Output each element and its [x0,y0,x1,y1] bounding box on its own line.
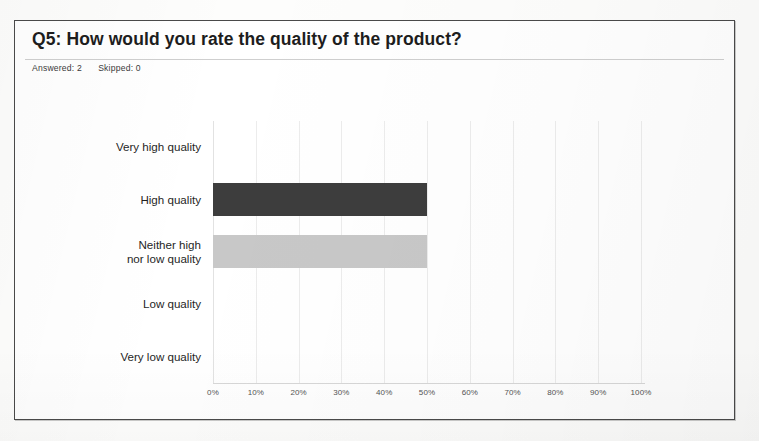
bar-row [213,226,641,278]
y-axis-label-line: Low quality [23,297,201,311]
bar-high-quality[interactable] [213,183,427,216]
card-header: Q5: How would you rate the quality of th… [15,21,734,59]
y-axis-label-very-low-quality: Very low quality [23,350,201,364]
page-title: Q5: How would you rate the quality of th… [32,29,462,50]
x-tick-50%: 50% [419,388,435,397]
gridline-100% [641,121,642,383]
x-tick-0%: 0% [207,388,219,397]
x-axis-baseline [213,383,645,384]
response-summary: Answered: 2 Skipped: 0 [32,63,141,73]
bar-row [213,278,641,330]
x-tick-30%: 30% [333,388,349,397]
plot-area [213,121,641,383]
y-axis-label-high-quality: High quality [23,193,201,207]
bar-row [213,121,641,173]
y-axis-label-very-high-quality: Very high quality [23,140,201,154]
x-tick-40%: 40% [376,388,392,397]
y-axis-label-line: Very low quality [23,350,201,364]
y-axis-label-line: High quality [23,193,201,207]
answered-count: Answered: 2 [32,63,82,73]
x-tick-70%: 70% [504,388,520,397]
y-axis-label-line: nor low quality [23,252,201,266]
x-tick-80%: 80% [547,388,563,397]
skipped-count: Skipped: 0 [98,63,141,73]
bar-row [213,173,641,225]
y-axis-label-low-quality: Low quality [23,297,201,311]
y-axis-label-line: Neither high [23,238,201,252]
y-axis-label-neither-high-nor-low-quality: Neither highnor low quality [23,238,201,266]
header-divider [25,59,724,60]
x-tick-10%: 10% [248,388,264,397]
survey-question-card: Q5: How would you rate the quality of th… [14,20,735,420]
bar-neither-high-nor-low-quality[interactable] [213,235,427,268]
x-tick-20%: 20% [290,388,306,397]
bar-row [213,331,641,383]
x-tick-100%: 100% [631,388,652,397]
bar-chart: 0%10%20%30%40%50%60%70%80%90%100% Very h… [15,83,736,421]
y-axis-label-line: Very high quality [23,140,201,154]
x-tick-60%: 60% [462,388,478,397]
x-tick-90%: 90% [590,388,606,397]
